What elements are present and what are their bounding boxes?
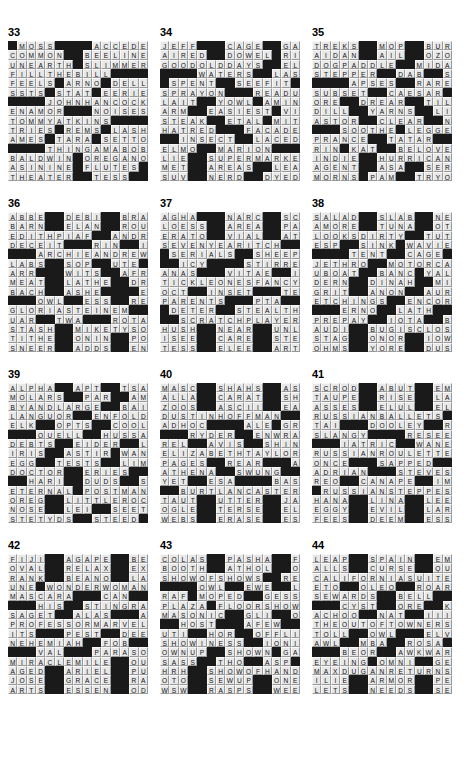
grid-cell-letter[interactable]: T: [405, 383, 414, 392]
grid-cell-letter[interactable]: F: [8, 78, 17, 87]
grid-cell-letter[interactable]: R: [443, 420, 452, 429]
grid-cell-letter[interactable]: I: [433, 240, 442, 249]
grid-cell-letter[interactable]: M: [377, 41, 386, 50]
grid-cell-letter[interactable]: I: [139, 402, 148, 411]
grid-cell-letter[interactable]: O: [443, 50, 452, 59]
grid-cell-letter[interactable]: D: [207, 430, 216, 439]
grid-cell-letter[interactable]: L: [291, 324, 300, 333]
grid-cell-letter[interactable]: R: [235, 240, 244, 249]
grid-cell-letter[interactable]: K: [92, 324, 101, 333]
grid-cell-letter[interactable]: E: [281, 402, 290, 411]
grid-cell-letter[interactable]: E: [139, 287, 148, 296]
grid-cell-letter[interactable]: B: [424, 41, 433, 50]
grid-cell-letter[interactable]: S: [207, 153, 216, 162]
grid-cell-letter[interactable]: E: [405, 476, 414, 485]
grid-cell-letter[interactable]: B: [27, 259, 36, 268]
grid-cell-letter[interactable]: T: [83, 277, 92, 286]
grid-cell-letter[interactable]: R: [197, 486, 206, 495]
grid-cell-letter[interactable]: A: [169, 458, 178, 467]
grid-cell-letter[interactable]: O: [27, 619, 36, 628]
grid-cell-letter[interactable]: T: [424, 231, 433, 240]
grid-cell-letter[interactable]: T: [321, 333, 330, 342]
grid-cell-letter[interactable]: T: [281, 333, 290, 342]
grid-cell-letter[interactable]: E: [321, 259, 330, 268]
grid-cell-letter[interactable]: D: [92, 439, 101, 448]
grid-cell-letter[interactable]: A: [188, 392, 197, 401]
grid-cell-letter[interactable]: E: [321, 476, 330, 485]
grid-cell-letter[interactable]: L: [443, 268, 452, 277]
grid-cell-letter[interactable]: A: [36, 249, 45, 258]
grid-cell-letter[interactable]: N: [139, 448, 148, 457]
grid-cell-letter[interactable]: N: [101, 685, 110, 694]
grid-cell-letter[interactable]: R: [443, 582, 452, 591]
grid-cell-letter[interactable]: O: [45, 50, 54, 59]
grid-cell-letter[interactable]: G: [321, 162, 330, 171]
grid-cell-letter[interactable]: Y: [349, 601, 358, 610]
grid-cell-letter[interactable]: G: [272, 467, 281, 476]
grid-cell-letter[interactable]: O: [359, 582, 368, 591]
grid-cell-letter[interactable]: G: [368, 296, 377, 305]
grid-cell-letter[interactable]: R: [424, 134, 433, 143]
grid-cell-letter[interactable]: S: [160, 657, 169, 666]
grid-cell-letter[interactable]: A: [179, 268, 188, 277]
grid-cell-letter[interactable]: A: [387, 610, 396, 619]
grid-cell-letter[interactable]: I: [83, 504, 92, 513]
grid-cell-letter[interactable]: U: [111, 259, 120, 268]
grid-cell-letter[interactable]: E: [111, 467, 120, 476]
grid-cell-letter[interactable]: T: [312, 619, 321, 628]
grid-cell-letter[interactable]: R: [312, 476, 321, 485]
grid-cell-letter[interactable]: E: [45, 333, 54, 342]
grid-cell-letter[interactable]: G: [331, 504, 340, 513]
grid-cell-letter[interactable]: S: [424, 162, 433, 171]
grid-cell-letter[interactable]: N: [8, 638, 17, 647]
grid-cell-letter[interactable]: S: [340, 486, 349, 495]
grid-cell-letter[interactable]: T: [179, 476, 188, 485]
grid-cell-letter[interactable]: Y: [368, 343, 377, 352]
grid-cell-letter[interactable]: L: [331, 629, 340, 638]
grid-cell-letter[interactable]: W: [424, 647, 433, 656]
grid-cell-letter[interactable]: I: [340, 439, 349, 448]
grid-cell-letter[interactable]: E: [415, 125, 424, 134]
grid-cell-letter[interactable]: O: [321, 231, 330, 240]
grid-cell-letter[interactable]: F: [216, 601, 225, 610]
grid-cell-letter[interactable]: Y: [197, 259, 206, 268]
grid-cell-letter[interactable]: N: [405, 554, 414, 563]
grid-cell-letter[interactable]: H: [36, 287, 45, 296]
grid-cell-letter[interactable]: S: [433, 514, 442, 523]
grid-cell-letter[interactable]: S: [129, 647, 138, 656]
grid-cell-letter[interactable]: N: [272, 277, 281, 286]
grid-cell-letter[interactable]: E: [83, 467, 92, 476]
grid-cell-letter[interactable]: A: [312, 324, 321, 333]
grid-cell-letter[interactable]: R: [312, 411, 321, 420]
grid-cell-letter[interactable]: A: [433, 504, 442, 513]
grid-cell-letter[interactable]: D: [321, 467, 330, 476]
grid-cell-letter[interactable]: A: [377, 383, 386, 392]
grid-cell-letter[interactable]: A: [235, 554, 244, 563]
grid-cell-letter[interactable]: R: [188, 430, 197, 439]
grid-cell-letter[interactable]: E: [377, 582, 386, 591]
grid-cell-letter[interactable]: R: [83, 619, 92, 628]
grid-cell-letter[interactable]: W: [377, 629, 386, 638]
grid-cell-letter[interactable]: G: [27, 458, 36, 467]
grid-cell-letter[interactable]: R: [139, 231, 148, 240]
grid-cell-letter[interactable]: O: [73, 333, 82, 342]
grid-cell-letter[interactable]: T: [321, 69, 330, 78]
grid-cell-letter[interactable]: O: [83, 153, 92, 162]
grid-cell-letter[interactable]: A: [424, 78, 433, 87]
grid-cell-letter[interactable]: N: [433, 212, 442, 221]
grid-cell-letter[interactable]: I: [197, 411, 206, 420]
grid-cell-letter[interactable]: T: [179, 287, 188, 296]
grid-cell-letter[interactable]: L: [340, 629, 349, 638]
grid-cell-letter[interactable]: A: [64, 591, 73, 600]
grid-cell-letter[interactable]: O: [368, 619, 377, 628]
grid-cell-letter[interactable]: M: [17, 134, 26, 143]
grid-cell-letter[interactable]: R: [291, 315, 300, 324]
grid-cell-letter[interactable]: L: [387, 212, 396, 221]
grid-cell-letter[interactable]: A: [272, 666, 281, 675]
grid-cell-letter[interactable]: I: [424, 573, 433, 582]
grid-cell-letter[interactable]: A: [73, 231, 82, 240]
grid-cell-letter[interactable]: E: [101, 439, 110, 448]
grid-cell-letter[interactable]: I: [424, 60, 433, 69]
grid-cell-letter[interactable]: I: [27, 231, 36, 240]
grid-cell-letter[interactable]: S: [8, 88, 17, 97]
